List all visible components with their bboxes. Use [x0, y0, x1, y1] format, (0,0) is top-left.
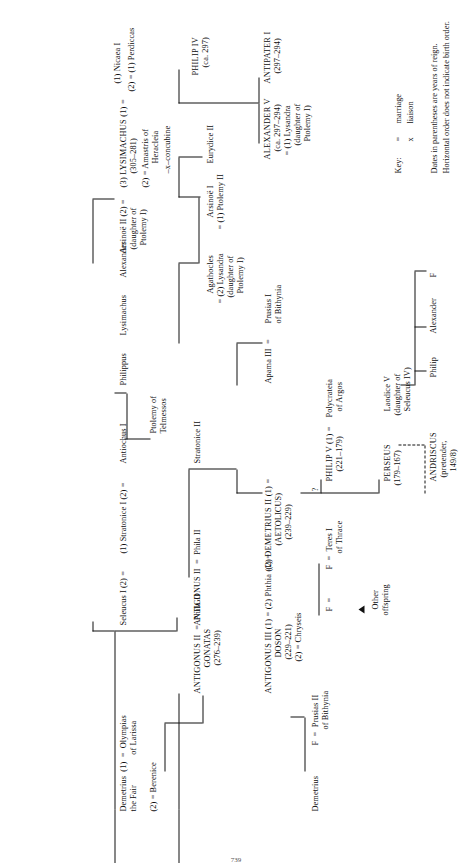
connector-andriscus-dashed-v — [398, 444, 424, 445]
connector-lysimachus-up-v — [92, 198, 114, 199]
node-perseus-name: PERSEUS — [382, 444, 392, 481]
connector-lysimachus-up-h — [92, 199, 93, 263]
node-arsinoe-ii-name: Arsinoë II (2) = — [118, 199, 128, 253]
page-number: 739 — [231, 856, 242, 863]
connector-lysimachus-children-h — [198, 197, 199, 263]
connector-demetrius-ii-v — [236, 492, 262, 493]
node-phila-ii: ANTIGONUS II = Phila II — [192, 529, 202, 625]
node-alexander-v-spouse1: = (1) Lysandra — [282, 105, 292, 155]
node-antigonus-ii-epithet: GONATAS — [202, 628, 212, 667]
node-demetrius-ii-dates: (239–229) — [283, 504, 293, 539]
connector-philipv-perseus — [320, 492, 378, 493]
node-agathocles-note-a: (daughter of — [225, 255, 235, 297]
key-liaison-symbol: x — [404, 137, 415, 141]
connector-trunk-left-2 — [178, 809, 179, 863]
node-teres-line1: F = Teres I — [324, 528, 334, 569]
connector-perseus-children-v3 — [414, 326, 426, 327]
node-perseus-dates: (179–167) — [392, 450, 402, 485]
node-uncertainty-marker: ? — [310, 487, 320, 491]
connector-seleucus-down-h — [176, 617, 177, 631]
node-other-offspring-line2: offspring — [380, 584, 390, 615]
node-ptolemy-telmessos-line1: Ptolemy of — [148, 395, 158, 433]
node-antigonus-iii-name: ANTIGONUS III (1) = (2) Phthia (1) = — [263, 553, 273, 693]
node-andriscus-name: ANDRISCUS — [428, 432, 438, 481]
chart-viewport: Demetrius (1) = Olympias the Fair of Lar… — [0, 0, 472, 863]
connector-alexander-v-h — [258, 77, 259, 103]
node-arsinoe-i-name: Arsinoë I — [205, 185, 215, 217]
connector-eurydice-bar — [178, 157, 179, 197]
connector-philip-iv-h — [178, 69, 179, 103]
node-teres-line2: of Thrace — [334, 520, 344, 553]
connector-philipv-in — [320, 479, 321, 493]
connector-stratonice-ii-v — [188, 468, 236, 469]
connector-seleucus-down — [114, 630, 176, 631]
connector-trunk-left-1 — [114, 809, 115, 863]
key-note-line-2: Horizontal order does not indicate birth… — [440, 21, 451, 173]
connector-lysimachus-children-v — [178, 262, 198, 263]
connector-demetrius-ii-in — [236, 469, 237, 493]
connector-demetrius-fair-v — [164, 722, 202, 723]
key-label: Key: — [392, 157, 403, 173]
key-marriage-symbol: = — [392, 136, 403, 141]
connector-philipv-left-h — [318, 563, 319, 615]
genealogy-sheet: Demetrius (1) = Olympias the Fair of Lar… — [0, 0, 472, 863]
node-seleucus-i: Seleucus I (2) = — [118, 571, 128, 625]
node-f-marker: F = — [324, 597, 334, 611]
node-alexander-v-dates: (ca. 297–294) — [272, 104, 282, 151]
connector-antiochus-down — [124, 438, 150, 439]
node-demetrius-fair-line1: Demetrius (1) = Olympias — [118, 715, 128, 811]
connector-antipater-i-h — [258, 103, 259, 143]
connector-demetrius-fair-h — [164, 723, 165, 771]
node-agathocles-name: Agathocles — [205, 255, 215, 293]
connector-gen-bar-top — [114, 631, 115, 809]
other-offspring-arrow-icon — [358, 605, 364, 613]
connector-gen-bar-antigonus-ii — [178, 693, 179, 809]
node-stratonice-i: (1) Stratonice I (2) = — [118, 482, 128, 553]
key-marriage-text: marriage — [392, 94, 403, 123]
node-antigonus-ii-dates: (276–239) — [212, 630, 222, 665]
connector-apama-h — [236, 343, 237, 385]
node-alexander-v-note-b: Ptolemy I) — [302, 105, 312, 141]
node-lysimachus-concubine: –x–concubine — [162, 125, 172, 173]
node-agathocles-spouse: = (2) Lysandra — [215, 253, 225, 303]
connector-arsinoe-i-v — [178, 196, 200, 197]
node-nicaea-line2: (2) = (1) Perdiccas — [126, 27, 136, 91]
node-polycrateia-line2: of Argos — [334, 382, 344, 411]
node-lysimachus-dates: (305–281) — [128, 138, 138, 173]
node-antigonus-iii-epithet: DOSON — [273, 628, 283, 657]
connector-bottomleft-h — [304, 717, 305, 771]
node-philip-iv-dates: (ca. 297) — [200, 37, 210, 67]
node-laodice-v-name: Laodice V — [382, 375, 392, 411]
node-ptolemy-telmessos-line2: Telmessos — [158, 398, 168, 433]
node-philip-iv-name: PHILIP IV — [190, 36, 200, 75]
node-other-offspring-line1: Other — [370, 590, 380, 609]
node-lysimachus-wife2: (2) = Amastris of — [140, 128, 150, 187]
node-demetrius-fair-line3: (2) = Berenice — [148, 762, 158, 811]
node-prusias-ii-line1: F = Prusias II — [310, 694, 320, 745]
node-laodice-v-note-a: (daughter of — [392, 373, 402, 415]
node-lysimachus-son: Lysimachus — [118, 294, 128, 335]
node-apama-iii: Apama III = — [263, 339, 273, 383]
node-prusias-ii-line2: of Bithynia — [320, 690, 330, 729]
connector-apama-v — [236, 342, 262, 343]
key-liaison-text: liaison — [404, 101, 415, 123]
node-demetrius-ii-name: (2) DEMETRIUS II (1) = — [263, 478, 273, 569]
node-arsinoe-ii-note-a: (daughter of — [128, 207, 138, 249]
node-alexander-v-name: ALEXANDER V — [262, 98, 272, 159]
node-alexander-v-note-a: (daughter of — [292, 103, 302, 145]
node-arsinoe-ii-note-b: Ptolemy I) — [138, 209, 148, 245]
node-andriscus-note-a: (pretender, — [438, 440, 448, 477]
connector-seleucus-up — [92, 630, 114, 631]
node-lysimachus-ordinal: (3) LYSIMACHUS (1) = — [118, 99, 128, 187]
node-arsinoe-i-spouse: = (1) Ptolemy II — [215, 174, 225, 229]
node-lysimachus-wife2-note: Heracleia — [150, 130, 160, 163]
connector-andriscus-dashed-h — [424, 445, 425, 493]
connector-philipv-up — [300, 492, 320, 493]
node-alexander-son2: Alexander — [428, 298, 438, 333]
connector-perseus-children-h — [414, 271, 415, 385]
node-philip-son: Philip — [428, 357, 438, 377]
connector-bottomleft-v — [290, 716, 304, 717]
connector-lysimachus-children-bar — [178, 263, 179, 343]
node-agathocles-note-b: Ptolemy I) — [235, 257, 245, 293]
connector-perseus-children-v2 — [414, 270, 426, 271]
